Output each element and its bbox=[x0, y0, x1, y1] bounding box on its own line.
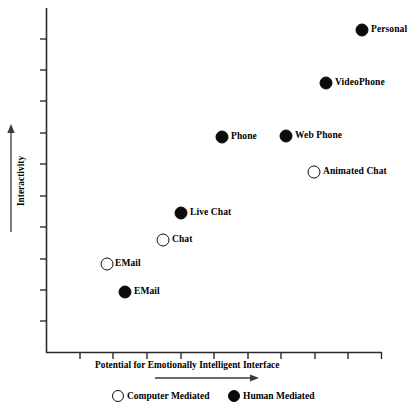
data-point-email-human-mediated[interactable] bbox=[119, 286, 132, 299]
data-label-chat: Chat bbox=[172, 235, 192, 245]
filled-circle-icon bbox=[228, 390, 240, 402]
x-axis-direction-arrow-icon bbox=[155, 374, 259, 381]
data-label-email-computer-mediated: EMail bbox=[115, 259, 141, 269]
open-circle-icon bbox=[112, 390, 124, 402]
data-point-web-phone[interactable] bbox=[280, 130, 293, 143]
data-label-phone: Phone bbox=[231, 132, 257, 142]
scatter-chart-figure: Personal VideoPhone Web Phone Phone Anim… bbox=[0, 0, 413, 413]
data-point-videophone[interactable] bbox=[320, 77, 333, 90]
y-axis-ticks bbox=[40, 39, 47, 321]
x-axis-title: Potential for Emotionally Intelligent In… bbox=[95, 360, 279, 370]
data-label-live-chat: Live Chat bbox=[190, 208, 231, 218]
data-label-videophone: VideoPhone bbox=[335, 78, 385, 88]
data-point-email-computer-mediated[interactable] bbox=[101, 258, 114, 271]
legend-item-human-mediated[interactable]: Human Mediated bbox=[228, 390, 315, 402]
data-point-live-chat[interactable] bbox=[175, 207, 188, 220]
x-axis-ticks bbox=[80, 353, 382, 360]
y-axis-direction-arrow-icon bbox=[7, 124, 14, 232]
data-point-chat[interactable] bbox=[157, 234, 170, 247]
legend-label-human-mediated: Human Mediated bbox=[243, 391, 315, 401]
data-point-phone[interactable] bbox=[216, 131, 229, 144]
legend-item-computer-mediated[interactable]: Computer Mediated bbox=[112, 390, 209, 402]
data-label-web-phone: Web Phone bbox=[295, 131, 342, 141]
legend-label-computer-mediated: Computer Mediated bbox=[127, 391, 209, 401]
y-axis-title: Interactivity bbox=[16, 138, 26, 224]
data-point-personal[interactable] bbox=[356, 24, 369, 37]
data-label-animated-chat: Animated Chat bbox=[323, 167, 387, 177]
data-point-animated-chat[interactable] bbox=[308, 166, 321, 179]
data-label-personal: Personal bbox=[371, 25, 407, 35]
data-label-email-human-mediated: EMail bbox=[134, 287, 160, 297]
